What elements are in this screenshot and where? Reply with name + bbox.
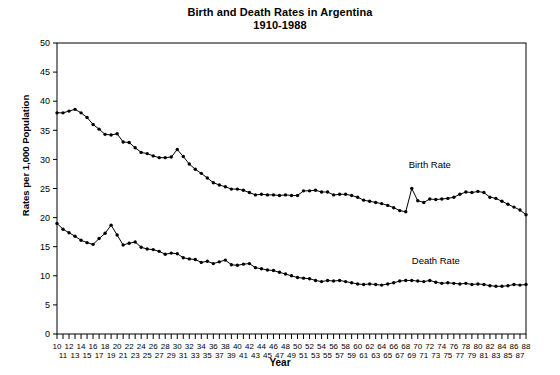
data-point [248, 262, 251, 265]
plot-area: 0510152025303540455010111213141516171819… [0, 0, 560, 375]
data-point [512, 283, 515, 286]
data-point [127, 141, 130, 144]
data-point [164, 156, 167, 159]
data-point [67, 231, 70, 234]
data-point [326, 279, 329, 282]
data-point [398, 209, 401, 212]
data-point [182, 256, 185, 259]
data-point [55, 111, 58, 114]
data-point [158, 156, 161, 159]
data-point [506, 203, 509, 206]
data-point [428, 279, 431, 282]
chart-container: Birth and Death Rates in Argentina 1910-… [0, 0, 560, 375]
data-point [79, 239, 82, 242]
data-point [314, 279, 317, 282]
data-point [188, 162, 191, 165]
x-axis-tick-label: 11 [59, 351, 68, 360]
data-point [218, 260, 221, 263]
y-axis-tick-label: 45 [40, 67, 50, 77]
data-point [170, 155, 173, 158]
x-axis-tick-label: 12 [65, 342, 74, 351]
data-point [446, 197, 449, 200]
data-point [145, 152, 148, 155]
data-point [464, 190, 467, 193]
data-point [278, 271, 281, 274]
series-annotation-death-rate: Death Rate [412, 255, 460, 266]
data-point [254, 193, 257, 196]
x-axis-tick-label: 24 [137, 342, 146, 351]
data-point [314, 189, 317, 192]
x-axis-tick-label: 33 [191, 351, 200, 360]
data-point [440, 197, 443, 200]
x-axis-tick-label: 52 [305, 342, 314, 351]
y-axis-tick-label: 30 [40, 155, 50, 165]
data-point [272, 193, 275, 196]
data-point [103, 133, 106, 136]
series-death-rate: Death Rate [55, 222, 527, 288]
data-point [133, 146, 136, 149]
data-point [362, 198, 365, 201]
x-axis-tick-label: 59 [347, 351, 356, 360]
x-axis-tick-label: 43 [251, 351, 260, 360]
data-point [206, 260, 209, 263]
x-axis-tick-label: 36 [209, 342, 218, 351]
data-point [368, 282, 371, 285]
series-annotation-birth-rate: Birth Rate [409, 159, 451, 170]
data-point [458, 282, 461, 285]
x-axis-tick-label: 79 [467, 351, 476, 360]
data-point [476, 190, 479, 193]
data-point [152, 248, 155, 251]
x-axis-tick-label: 30 [173, 342, 182, 351]
x-axis-tick-label: 40 [233, 342, 242, 351]
x-axis-tick-label: 44 [257, 342, 266, 351]
data-point [218, 183, 221, 186]
data-point [518, 283, 521, 286]
x-axis-tick-label: 76 [449, 342, 458, 351]
data-point [344, 280, 347, 283]
x-axis-tick-label: 88 [522, 342, 531, 351]
data-point [500, 285, 503, 288]
data-point [434, 198, 437, 201]
x-axis-tick-label: 72 [425, 342, 434, 351]
data-point [103, 232, 106, 235]
x-axis-tick-label: 39 [227, 351, 236, 360]
x-axis-tick-label: 20 [113, 342, 122, 351]
x-axis-tick-label: 53 [311, 351, 320, 360]
data-point [380, 283, 383, 286]
data-point [145, 247, 148, 250]
data-point [115, 233, 118, 236]
series-birth-rate: Birth Rate [55, 108, 527, 217]
data-point [404, 210, 407, 213]
data-point [170, 251, 173, 254]
data-point [272, 269, 275, 272]
data-point [260, 193, 263, 196]
data-point [212, 262, 215, 265]
data-point [464, 282, 467, 285]
x-axis-tick-label: 31 [179, 351, 188, 360]
data-point [470, 283, 473, 286]
data-point [488, 284, 491, 287]
x-axis-tick-label: 26 [149, 342, 158, 351]
data-point [452, 282, 455, 285]
x-axis-tick-label: 77 [455, 351, 464, 360]
data-point [73, 235, 76, 238]
x-axis-tick-label: 23 [131, 351, 140, 360]
data-point [320, 280, 323, 283]
x-axis-tick-label: 34 [197, 342, 206, 351]
data-point [230, 187, 233, 190]
data-point [284, 193, 287, 196]
data-point [67, 109, 70, 112]
data-point [248, 191, 251, 194]
x-axis-tick-label: 19 [107, 351, 116, 360]
x-axis-tick-label: 48 [281, 342, 290, 351]
data-point [97, 127, 100, 130]
data-point [278, 194, 281, 197]
data-point [398, 279, 401, 282]
data-point [91, 123, 94, 126]
x-axis-tick-label: 37 [215, 351, 224, 360]
x-axis-tick-label: 38 [221, 342, 230, 351]
x-axis-tick-label: 60 [353, 342, 362, 351]
data-point [392, 206, 395, 209]
x-axis-tick-label: 29 [167, 351, 176, 360]
x-axis-tick-label: 78 [461, 342, 470, 351]
